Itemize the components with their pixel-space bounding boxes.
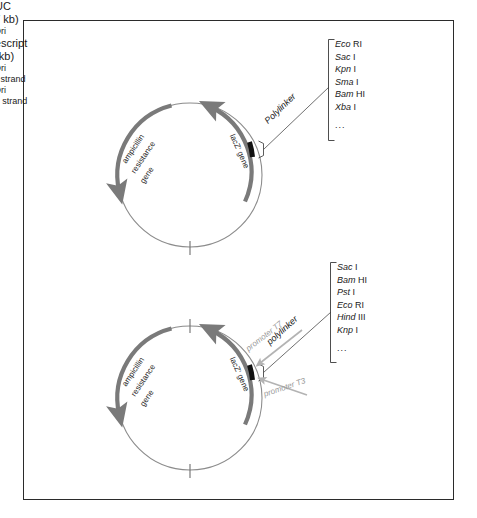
enzyme-list-ellipsis: ... [335, 113, 365, 132]
enzyme-name: Bam [337, 275, 356, 285]
enzyme-number: I [354, 64, 357, 74]
enzyme-row: Eco RI [335, 38, 365, 51]
enzyme-row: Eco RI [337, 299, 367, 312]
enzyme-number: HI [356, 89, 365, 99]
pbluescript-size: (3 kb) [0, 50, 239, 63]
enzyme-name: Sma [335, 77, 354, 87]
enzyme-number: III [358, 312, 366, 322]
enzyme-number: RI [355, 300, 364, 310]
enzyme-name: Pst [337, 287, 350, 297]
enzyme-row: Knp I [337, 324, 367, 337]
enzyme-number: HI [358, 275, 367, 285]
enzyme-number: I [353, 287, 356, 297]
enzyme-row: Xba I [335, 101, 365, 114]
enzyme-number: RI [353, 39, 362, 49]
pbluescript-enzyme-list: Sac I Bam HI Pst I Eco RI Hind III Knp I… [337, 261, 367, 355]
puc-enzyme-list: Eco RI Sac I Kpn I Sma I Bam HI Xba I ..… [335, 38, 365, 132]
pbluescript-ori-top-label: Ori single strand [0, 63, 239, 85]
pbluescript-title: pBluescript (3 kb) [0, 37, 239, 63]
enzyme-name: Kpn [335, 64, 351, 74]
ori-top-line2: single strand [0, 74, 239, 85]
ori-bottom-line2: double strand [0, 96, 239, 107]
puc-ori-label: Ori [0, 26, 239, 37]
enzyme-name: Xba [335, 102, 351, 112]
enzyme-row: Sma I [335, 76, 365, 89]
puc-title: pUC (2.7 kb) [0, 0, 239, 26]
enzyme-row: Sac I [337, 261, 367, 274]
enzyme-row: Sac I [335, 51, 365, 64]
enzyme-name: Sac [337, 262, 353, 272]
enzyme-row: Hind III [337, 311, 367, 324]
ori-bottom-line1: Ori [0, 85, 239, 96]
pbluescript-name: pBluescript [0, 37, 239, 50]
enzyme-row: Pst I [337, 286, 367, 299]
enzyme-number: I [356, 77, 359, 87]
enzyme-number: I [353, 52, 356, 62]
enzyme-name: Bam [335, 89, 354, 99]
enzyme-name: Hind [337, 312, 356, 322]
enzyme-row: Kpn I [335, 63, 365, 76]
enzyme-number: I [354, 102, 357, 112]
enzyme-row: Bam HI [335, 88, 365, 101]
enzyme-name: Eco [337, 300, 353, 310]
enzyme-name: Sac [335, 52, 351, 62]
enzyme-number: I [356, 325, 359, 335]
enzyme-name: Eco [335, 39, 351, 49]
enzyme-list-ellipsis: ... [337, 336, 367, 355]
enzyme-number: I [355, 262, 358, 272]
puc-name: pUC [0, 0, 239, 13]
puc-size: (2.7 kb) [0, 13, 239, 26]
enzyme-row: Bam HI [337, 274, 367, 287]
enzyme-name: Knp [337, 325, 353, 335]
ori-top-line1: Ori [0, 63, 239, 74]
pbluescript-ori-bottom-label: Ori double strand [0, 85, 239, 107]
